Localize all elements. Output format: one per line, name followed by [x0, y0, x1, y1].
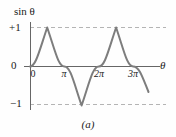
x-axis-label: θ: [160, 60, 165, 71]
plot-area: [0, 0, 176, 137]
figure-caption: (a): [0, 118, 176, 130]
y-tick-label-zero: 0: [11, 60, 17, 71]
x-tick-label-zero: 0: [31, 69, 36, 79]
y-tick-label-plus-one: +1: [9, 22, 21, 33]
y-axis-label: sin θ: [14, 6, 35, 17]
x-tick-label-three-pi: 3π: [128, 69, 138, 79]
x-tick-label-pi: π: [61, 69, 66, 79]
x-tick-label-two-pi: 2π: [94, 69, 104, 79]
y-tick-label-minus-one: −1: [10, 98, 22, 109]
sine-wave-figure: sin θ θ +1 0 −1 0 π 2π 3π (a): [0, 0, 176, 137]
